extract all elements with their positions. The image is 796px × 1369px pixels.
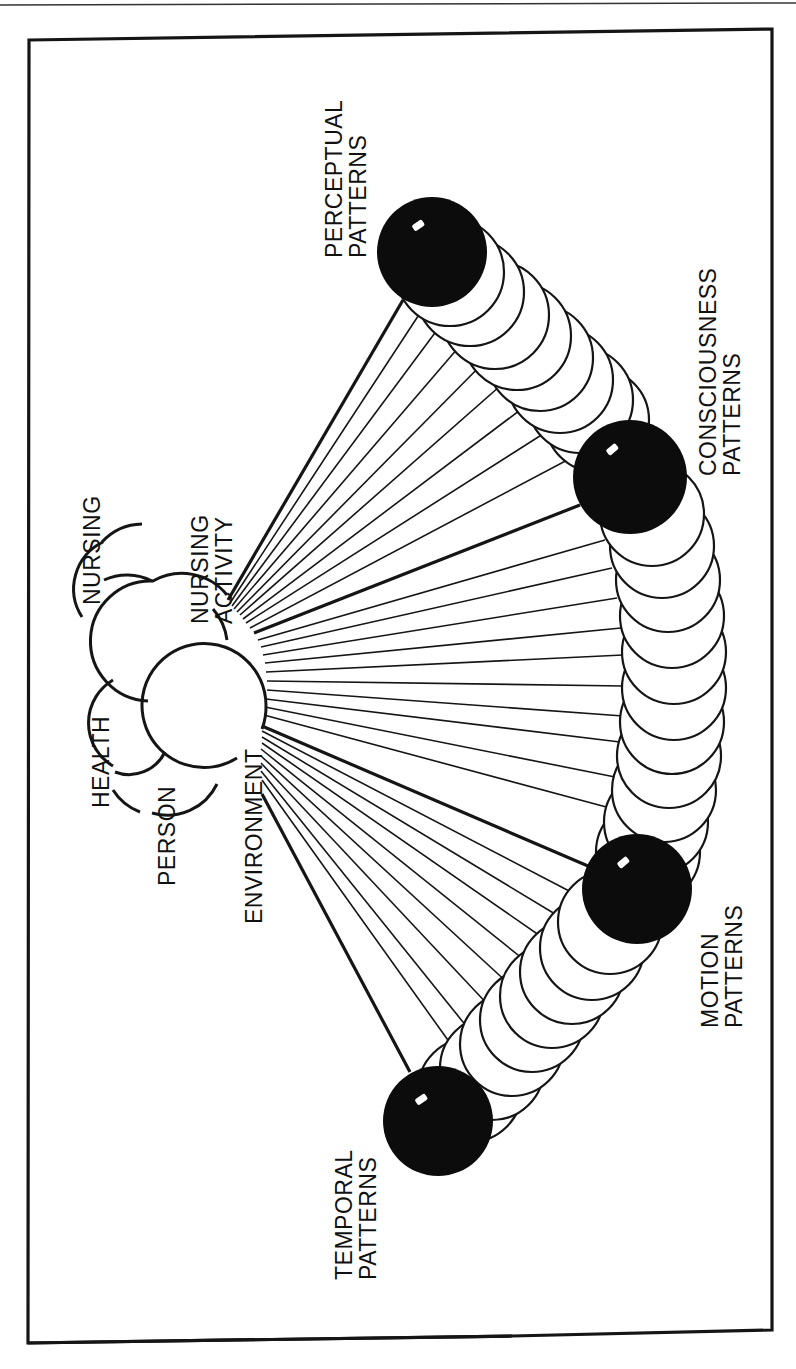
label-nursing-activity-1: NURSING <box>187 514 213 624</box>
label-nursing: NURSING <box>79 495 105 605</box>
label-consciousness-2: PATTERNS <box>719 353 745 476</box>
label-person: PERSON <box>154 786 180 886</box>
temporal-patterns-node <box>383 1066 493 1176</box>
perceptual-patterns-node <box>377 197 487 307</box>
label-environment: ENVIRONMENT <box>241 749 267 924</box>
label-temporal-1: TEMPORAL <box>331 1149 357 1280</box>
frame-bottom-edge <box>28 1336 512 1343</box>
consciousness-patterns-node <box>573 420 687 534</box>
nursing-patterns-diagram: NURSING NURSING ACTIVITY HEALTH PERSON E… <box>0 0 796 1369</box>
motion-patterns-node <box>582 834 692 944</box>
label-temporal-2: PATTERNS <box>355 1157 381 1280</box>
page-top-rule <box>0 3 796 5</box>
label-perceptual-2: PATTERNS <box>345 135 371 258</box>
label-motion-2: PATTERNS <box>721 905 747 1028</box>
label-perceptual-1: PERCEPTUAL <box>321 100 347 258</box>
label-health: HEALTH <box>88 716 114 808</box>
label-consciousness-1: CONSCIOUSNESS <box>695 268 721 476</box>
label-nursing-activity-2: ACTIVITY <box>211 516 237 624</box>
label-motion-1: MOTION <box>697 933 723 1028</box>
